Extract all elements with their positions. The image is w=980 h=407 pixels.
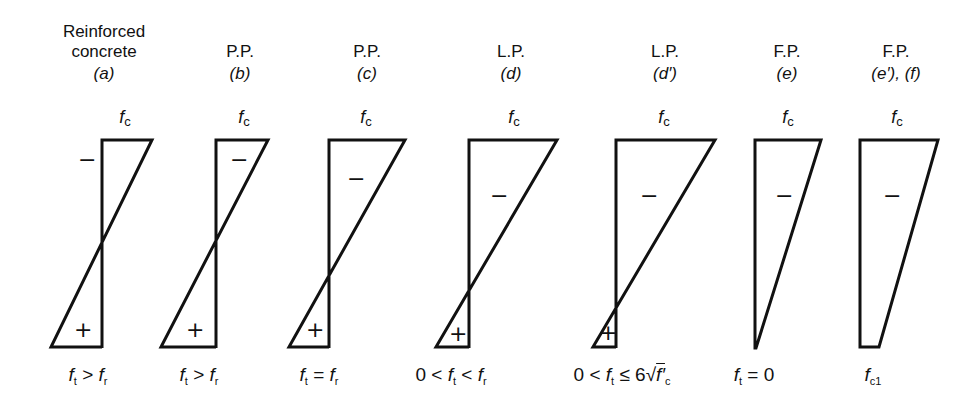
stress-block-e: − (755, 140, 821, 348)
sign-minus-e-prime-f: − (883, 183, 901, 208)
condition-d: 0 < ft < fr (415, 364, 486, 387)
stress-block-d: − + (436, 140, 557, 348)
sign-minus-a: − (78, 147, 96, 172)
sign-plus-a: + (74, 317, 92, 342)
sign-minus-d: − (490, 183, 508, 208)
sign-plus-d: + (449, 321, 467, 346)
sign-plus-b: + (186, 317, 204, 342)
sign-minus-e: − (775, 183, 793, 208)
stress-block-d-prime: − + (593, 140, 715, 348)
condition-e: ft = 0 (734, 364, 775, 387)
stress-block-b: − + (161, 140, 268, 348)
condition-a: ft > fr (69, 364, 108, 387)
sign-plus-d-prime: + (599, 320, 617, 345)
stress-diagrams: − + − + − + − + − + − − (0, 0, 980, 407)
stress-block-c: − + (289, 140, 405, 348)
sign-minus-b: − (230, 147, 248, 172)
condition-c: ft = fr (300, 364, 339, 387)
condition-b: ft > fr (180, 364, 219, 387)
stress-block-a: − + (51, 140, 152, 348)
sign-plus-c: + (306, 317, 324, 342)
sign-minus-c: − (347, 166, 365, 191)
condition-e-prime-f: fc1 (865, 364, 882, 387)
stress-block-e-prime-f: − (860, 140, 938, 347)
sign-minus-d-prime: − (640, 183, 658, 208)
condition-d-prime: 0 < ft ≤ 6√f′c (574, 364, 671, 387)
